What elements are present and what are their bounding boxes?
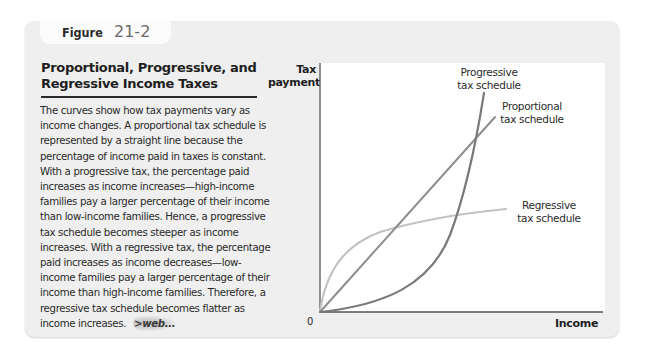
- progressive-label-line2: tax schedule: [445, 79, 533, 92]
- x-axis-label: Income: [555, 317, 598, 330]
- chart-svg: [0, 0, 647, 354]
- origin-label: 0: [307, 316, 313, 327]
- proportional-annotation: Proportional tax schedule: [494, 100, 570, 125]
- progressive-curve: [320, 93, 484, 312]
- regressive-curve: [320, 209, 506, 312]
- progressive-label-line1: Progressive: [445, 66, 533, 79]
- regressive-label-line1: Regressive: [510, 199, 588, 212]
- regressive-annotation: Regressive tax schedule: [510, 199, 588, 224]
- proportional-line: [320, 117, 495, 312]
- proportional-label-line1: Proportional: [494, 100, 570, 113]
- proportional-label-line2: tax schedule: [494, 113, 570, 126]
- regressive-label-line2: tax schedule: [510, 212, 588, 225]
- progressive-annotation: Progressive tax schedule: [445, 66, 533, 91]
